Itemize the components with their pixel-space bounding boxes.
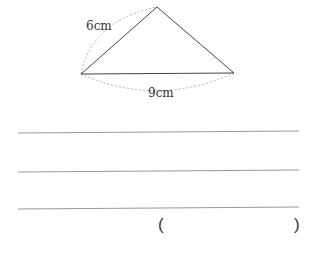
triangle	[81, 7, 234, 74]
close-paren: )	[294, 215, 300, 235]
base-length-label: 9cm	[148, 86, 174, 100]
open-paren: (	[158, 215, 164, 235]
answer-blank[interactable]	[172, 215, 290, 237]
answer-line-3	[18, 207, 299, 209]
answer-line-2	[18, 170, 299, 172]
answer-line-1	[18, 131, 299, 133]
side-length-label: 6cm	[86, 19, 112, 33]
